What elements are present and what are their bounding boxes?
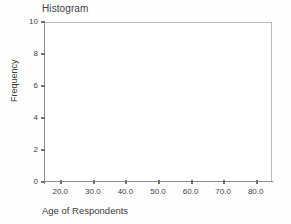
y-tick-label: 2 <box>0 144 38 155</box>
y-axis-label: Frequency <box>9 88 20 102</box>
y-tick-label: 0 <box>0 176 38 187</box>
plot-area <box>45 23 271 181</box>
tick-mark <box>256 180 258 184</box>
tick-mark <box>41 181 45 183</box>
tick-mark <box>158 180 160 184</box>
tick-mark <box>60 180 62 184</box>
tick-mark <box>41 85 45 87</box>
tick-mark <box>93 180 95 184</box>
y-tick-label: 10 <box>0 16 38 27</box>
tick-mark <box>41 149 45 151</box>
tick-mark <box>125 180 127 184</box>
tick-mark <box>191 180 193 184</box>
x-axis-label: Age of Respondents <box>42 204 128 217</box>
y-tick-label: 4 <box>0 112 38 123</box>
x-tick-label: 80.0 <box>236 186 276 197</box>
tick-mark <box>223 180 225 184</box>
chart-title: Histogram <box>42 3 88 15</box>
tick-mark <box>41 53 45 55</box>
histogram-figure: Histogram 0246810 20.030.040.050.060.070… <box>0 0 291 224</box>
tick-mark <box>41 21 45 23</box>
tick-mark <box>41 117 45 119</box>
plot-frame <box>44 22 272 182</box>
y-tick-label: 8 <box>0 48 38 59</box>
